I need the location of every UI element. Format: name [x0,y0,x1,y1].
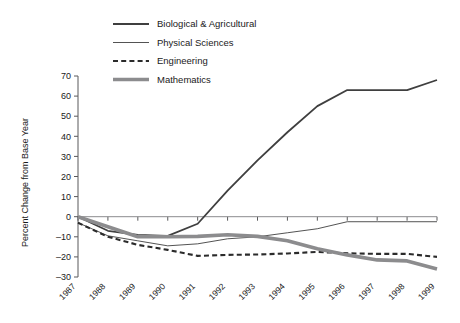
x-tick-label: 1996 [326,281,347,302]
x-tick-label: 1988 [87,281,108,302]
legend-label: Mathematics [157,74,211,85]
x-tick-label: 1994 [266,281,287,302]
y-tick-label: –30 [56,272,71,282]
legend-label: Engineering [157,55,208,66]
chart-figure: Biological & AgriculturalPhysical Scienc… [0,0,460,323]
y-tick-label: 70 [61,71,71,81]
y-tick-label: 30 [61,152,71,162]
legend-label: Biological & Agricultural [157,18,256,29]
y-axis-title: Percent Change from Base Year [20,118,30,247]
y-tick-label: 20 [61,172,71,182]
x-tick-label: 1987 [57,281,78,302]
y-tick-label: 10 [61,192,71,202]
y-tick-label: 60 [61,91,71,101]
x-tick-label: 1997 [356,281,377,302]
y-tick-label: 40 [61,132,71,142]
x-tick-label: 1999 [416,281,437,302]
x-tick-label: 1989 [117,281,138,302]
x-tick-label: 1991 [177,281,198,302]
legend-label: Physical Sciences [157,37,234,48]
x-tick-label: 1992 [207,281,228,302]
y-tick-label: –10 [56,232,71,242]
series-line-biological-agricultural [78,80,437,236]
x-tick-label: 1998 [386,281,407,302]
y-tick-label: 0 [66,212,71,222]
x-tick-label: 1990 [147,281,168,302]
y-axis-ticks: –30–20–10010203040506070 [56,71,78,282]
y-tick-label: –20 [56,252,71,262]
chart-legend: Biological & AgriculturalPhysical Scienc… [113,18,256,85]
x-tick-label: 1993 [236,281,257,302]
y-tick-label: 50 [61,111,71,121]
x-tick-label: 1995 [296,281,317,302]
data-series [78,80,437,269]
line-chart: Biological & AgriculturalPhysical Scienc… [0,0,460,323]
